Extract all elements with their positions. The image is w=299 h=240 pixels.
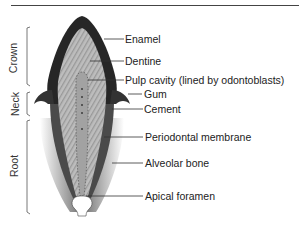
label-enamel: Enamel xyxy=(125,33,161,45)
label-cement: Cement xyxy=(144,103,181,115)
crown-bracket xyxy=(27,27,30,86)
region-label-crown: Crown xyxy=(7,43,19,73)
gum-left xyxy=(34,90,54,104)
label-alveolar-bone: Alveolar bone xyxy=(145,157,209,169)
label-periodontal-membrane: Periodontal membrane xyxy=(145,131,251,143)
region-label-neck: Neck xyxy=(9,92,21,116)
region-brackets xyxy=(27,27,30,214)
label-gum: Gum xyxy=(144,88,167,100)
region-label-root: Root xyxy=(8,155,20,177)
apical-foramen xyxy=(72,196,92,216)
label-pulp-cavity: Pulp cavity (lined by odontoblasts) xyxy=(125,74,284,86)
neck-bracket xyxy=(27,92,30,116)
root-bracket xyxy=(27,120,30,214)
gum-right xyxy=(110,90,130,104)
label-dentine: Dentine xyxy=(125,55,161,67)
label-apical-foramen: Apical foramen xyxy=(145,190,215,202)
